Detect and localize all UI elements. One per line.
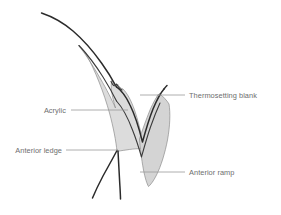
anterior-ramp-shape — [140, 94, 170, 187]
anterior-ledge-curve-right — [118, 151, 121, 199]
label-anterior-ramp: Anterior ramp — [189, 168, 234, 177]
figure-root: Thermosetting blank Acrylic Anterior led… — [0, 0, 281, 215]
label-thermosetting-blank: Thermosetting blank — [189, 91, 257, 100]
anatomical-diagram: Thermosetting blank Acrylic Anterior led… — [0, 0, 281, 215]
label-anterior-ledge: Anterior ledge — [15, 146, 62, 155]
anterior-ledge-curve-left — [93, 151, 118, 199]
thermosetting-blank-right-curve — [164, 86, 167, 90]
label-acrylic: Acrylic — [44, 106, 66, 115]
thermosetting-blank-upper-curve — [42, 13, 117, 87]
